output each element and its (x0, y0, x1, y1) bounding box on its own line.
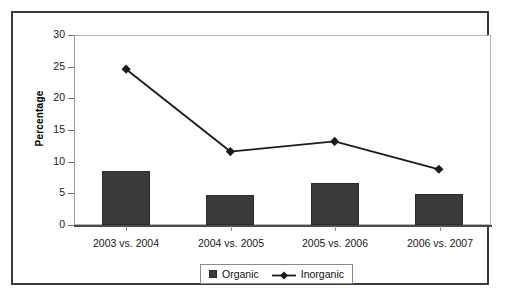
legend-entry-organic: Organic (209, 268, 259, 280)
inorganic-marker-3 (330, 137, 339, 146)
y-tick-label-0: 0 (59, 218, 65, 230)
y-tick-label-5: 5 (59, 186, 65, 198)
legend-label-organic: Organic (222, 268, 259, 280)
y-tick-label-15: 15 (53, 123, 65, 135)
chart-legend: Organic Inorganic (200, 264, 353, 284)
y-tick-15: 15 (31, 130, 74, 131)
x-axis-line (74, 225, 492, 227)
inorganic-line-series (74, 35, 491, 225)
legend-square-icon (209, 270, 217, 278)
x-tick-3 (335, 226, 336, 231)
x-tick-4 (440, 226, 441, 231)
y-tick-label-30: 30 (53, 28, 65, 40)
figure-border: Percentage 30 25 20 15 10 5 (11, 11, 489, 285)
x-tick-2 (231, 226, 232, 231)
legend-diamond-line-icon (272, 270, 296, 279)
y-tick-10: 10 (31, 162, 74, 163)
y-tick-label-10: 10 (53, 155, 65, 167)
inorganic-marker-4 (434, 165, 443, 174)
y-tick-label-20: 20 (53, 91, 65, 103)
chart-figure: Percentage 30 25 20 15 10 5 (0, 0, 506, 296)
y-axis-title: Percentage (34, 74, 45, 164)
y-tick-label-25: 25 (53, 60, 65, 72)
x-tick-1 (126, 226, 127, 231)
y-tick-25: 25 (31, 67, 74, 68)
legend-label-inorganic: Inorganic (301, 268, 344, 280)
legend-entry-inorganic: Inorganic (272, 268, 344, 280)
inorganic-line-path (126, 69, 439, 169)
y-tick-0: 0 (31, 225, 74, 226)
y-tick-5: 5 (31, 193, 74, 194)
x-tick-label-4: 2006 vs. 2007 (375, 237, 505, 249)
y-tick-20: 20 (31, 98, 74, 99)
y-tick-30: 30 (31, 35, 74, 36)
